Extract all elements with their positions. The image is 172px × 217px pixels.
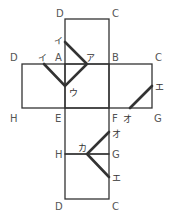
label-right-c: C xyxy=(155,52,162,63)
face-right xyxy=(109,64,152,108)
label-o-right: オ xyxy=(123,114,132,124)
cut-line-e-o xyxy=(130,86,152,108)
label-bottom-c: C xyxy=(112,201,119,212)
label-mid-g: G xyxy=(112,149,120,160)
label-u: ウ xyxy=(69,88,78,98)
face-center xyxy=(65,64,109,108)
face-lower xyxy=(65,108,109,154)
label-i-top: イ xyxy=(54,36,63,46)
label-g: G xyxy=(154,113,162,124)
label-b: B xyxy=(112,52,119,63)
label-top-d: D xyxy=(56,8,64,19)
label-mid-h: H xyxy=(55,149,63,160)
label-e-bottom: エ xyxy=(112,173,121,183)
cube-net-diagram: D C D A B C H E F G H G D C イ イ ア ウ エ オ … xyxy=(0,0,172,217)
label-i-left: イ xyxy=(38,53,47,63)
label-a-kana: ア xyxy=(86,53,95,63)
label-ka: カ xyxy=(78,143,87,153)
face-left xyxy=(22,64,65,108)
label-left-h: H xyxy=(10,113,18,124)
face-bottom xyxy=(65,154,109,199)
label-left-d: D xyxy=(10,52,18,63)
label-top-c: C xyxy=(112,8,119,19)
label-a: A xyxy=(55,52,62,63)
label-e-right: エ xyxy=(155,82,164,92)
label-bottom-d: D xyxy=(55,201,63,212)
label-o-bottom: オ xyxy=(112,129,121,139)
label-e: E xyxy=(55,113,61,124)
label-f: F xyxy=(112,113,118,124)
